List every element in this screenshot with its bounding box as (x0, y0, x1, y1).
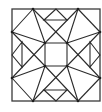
segment-B1-L3 (12, 78, 33, 101)
triangle-top (44, 9, 67, 20)
vertex-dot-R1 (99, 31, 102, 34)
vertex-dot-T1 (32, 8, 35, 11)
triangle-left (12, 42, 22, 67)
vertex-dot-I1 (44, 42, 47, 45)
segment-T1-L1 (12, 9, 33, 32)
vertex-dot-B1 (32, 100, 35, 103)
quilt-pattern-diagram (0, 0, 102, 112)
vertex-dot-T3 (77, 8, 80, 11)
vertex-dot-B3 (77, 100, 80, 103)
vertex-dot-L1 (11, 31, 14, 34)
vertex-dot-I3 (66, 65, 69, 68)
segment-B3-R3 (78, 78, 100, 101)
vertex-dot-R3 (99, 77, 102, 80)
segment-B1-I4 (33, 66, 45, 101)
triangle-bottom (44, 90, 67, 101)
pattern-lines (12, 9, 100, 101)
vertex-dot-I2 (66, 42, 69, 45)
segment-T1-I1 (33, 9, 45, 43)
segment-T3-R1 (78, 9, 100, 32)
outer-frame (12, 9, 100, 101)
triangle-right (90, 42, 100, 67)
vertex-dots (11, 8, 102, 103)
edge-triangles (12, 9, 100, 101)
vertex-dot-I4 (44, 65, 47, 68)
vertex-dot-L3 (11, 77, 14, 80)
